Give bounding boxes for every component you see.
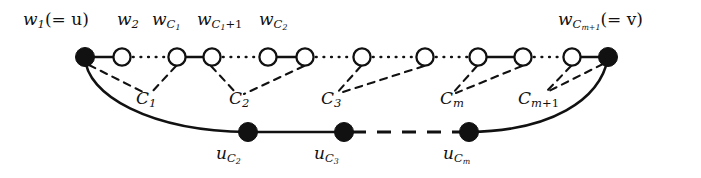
label-C2-sub: 2 bbox=[242, 96, 249, 110]
node-10-open bbox=[514, 48, 531, 65]
node-9-open bbox=[469, 48, 486, 65]
label-wC2: wC2 bbox=[259, 11, 287, 29]
label-w2: w2 bbox=[117, 11, 139, 28]
dashed-edge-n6-C2 bbox=[244, 66, 304, 94]
label-Cmplus1-sub: m+1 bbox=[531, 96, 559, 110]
node-w1-filled bbox=[76, 48, 95, 67]
label-C2: C2 bbox=[229, 90, 249, 107]
label-C1-base: C bbox=[136, 88, 149, 108]
label-wC1: wC1 bbox=[152, 11, 180, 29]
node-wCmplus1-filled bbox=[599, 48, 618, 67]
label-Cm-sub: m bbox=[453, 96, 464, 110]
dashed-edge-n11-Cmp1 bbox=[545, 66, 571, 93]
label-wC1-base: w bbox=[152, 9, 167, 29]
label-wC1plus1: wC1+1 bbox=[197, 11, 242, 29]
label-w2-sub: 2 bbox=[132, 17, 139, 31]
node-wC1plus1-open bbox=[203, 48, 220, 65]
label-uCm: uCm bbox=[443, 145, 470, 163]
node-uCm-filled bbox=[460, 123, 479, 142]
label-wCmplus1-base: w bbox=[558, 9, 573, 29]
label-wC2-sub: C2 bbox=[274, 17, 288, 31]
node-7-open bbox=[353, 48, 370, 65]
label-uCm-base: u bbox=[443, 143, 454, 163]
label-wCmplus1-suffix: (= v) bbox=[600, 9, 643, 29]
label-wC1-sub: C1 bbox=[167, 17, 181, 31]
node-11-open bbox=[563, 48, 580, 65]
label-uC2-sub: C2 bbox=[227, 151, 241, 165]
node-w2-open bbox=[113, 48, 130, 65]
label-Cmplus1-base: C bbox=[518, 88, 531, 108]
label-uC2: uC2 bbox=[216, 145, 241, 163]
node-uC2-filled bbox=[239, 123, 258, 142]
label-w1-base: w bbox=[23, 9, 38, 29]
left-outer-arc bbox=[85, 57, 248, 132]
label-uC3: uC3 bbox=[314, 145, 339, 163]
label-w1-suffix: (= u) bbox=[45, 9, 89, 29]
label-wC1plus1-base: w bbox=[197, 9, 212, 29]
label-C3-sub: 3 bbox=[334, 96, 341, 110]
node-uC3-filled bbox=[335, 123, 354, 142]
label-C3: C3 bbox=[321, 90, 341, 107]
label-uC2-base: u bbox=[216, 143, 227, 163]
label-C1: C1 bbox=[136, 90, 156, 107]
label-wCmplus1: wCm+1(= v) bbox=[558, 11, 643, 29]
label-C1-sub: 1 bbox=[149, 96, 156, 110]
label-Cm-base: C bbox=[440, 88, 453, 108]
label-uC3-sub: C3 bbox=[325, 151, 339, 165]
label-wC1plus1-sub: C1+1 bbox=[212, 17, 243, 31]
label-uC3-base: u bbox=[314, 143, 325, 163]
graph-figure: w1(= u) w2 wC1 wC1+1 wC2 wCm+1(= v) C1 C… bbox=[0, 0, 701, 178]
node-8-open bbox=[416, 48, 433, 65]
node-6-open bbox=[296, 48, 313, 65]
label-wC2-base: w bbox=[259, 9, 274, 29]
label-uCm-sub: Cm bbox=[454, 151, 470, 165]
node-wC1-open bbox=[168, 48, 185, 65]
dashed-edge-n8-C3 bbox=[340, 66, 424, 93]
label-Cm: Cm bbox=[440, 90, 464, 107]
label-w2-base: w bbox=[117, 9, 132, 29]
label-C3-base: C bbox=[321, 88, 334, 108]
label-w1: w1(= u) bbox=[23, 11, 89, 28]
label-wCmplus1-sub: Cm+1 bbox=[573, 17, 601, 31]
label-C2-base: C bbox=[229, 88, 242, 108]
node-wC2-open bbox=[259, 48, 276, 65]
label-Cmplus1: Cm+1 bbox=[518, 90, 559, 107]
label-w1-sub: 1 bbox=[38, 17, 45, 31]
